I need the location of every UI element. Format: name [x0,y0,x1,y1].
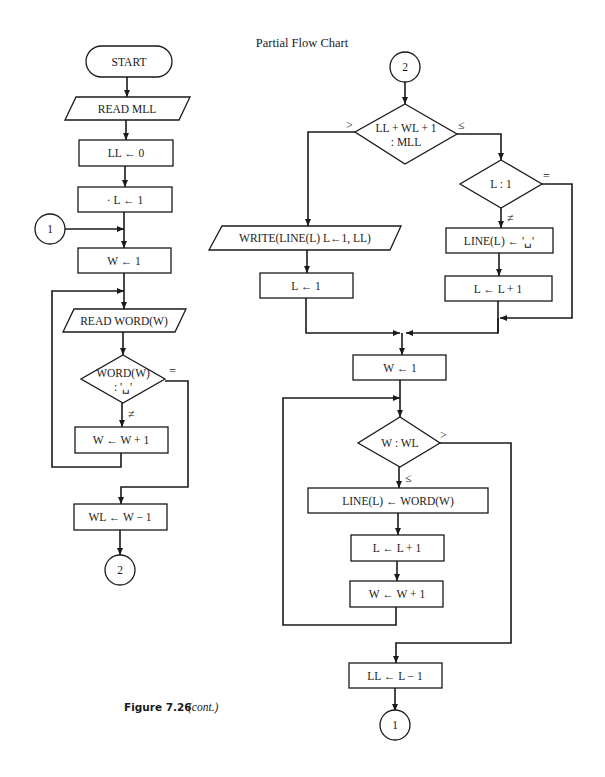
chart-title: Partial Flow Chart [256,36,349,50]
figure-caption-number: Figure 7.26 [124,701,192,713]
l-inc-b-process: L ← L + 1 [351,535,444,561]
w-inc-process: W ← W + 1 [75,427,168,453]
read-word-io: READ WORD(W) [63,309,186,332]
figure-caption-note: (cont.) [188,701,219,714]
w-inc-b-process: W ← W + 1 [350,581,443,607]
l-reset-process: L ← 1 [260,273,353,298]
w-init-b-label: W ← 1 [383,362,417,374]
word-blank-decision: WORD(W) : '␣' [81,355,165,403]
connector-1-out-label: 1 [392,719,398,731]
ll-set-process: LL ← L − 1 [349,663,442,688]
ll-init-process: LL ← 0 [79,140,173,166]
l-inc-a-label: L ← L + 1 [474,283,523,295]
ll-set-label: LL ← L − 1 [367,670,423,682]
wl-set-process: WL ← W − 1 [74,504,167,530]
word-decision-eq-label: = [169,364,176,378]
connector-2-in-label: 2 [402,61,408,73]
connector-1-in-label: 1 [47,223,53,235]
write-line-io: WRITE(LINE(L) L←1, LL) [209,226,401,250]
w-wl-gt-label: > [440,428,447,442]
line-fit-le-label: ≤ [458,118,465,132]
right-flow: 2 LL + WL + 1 : MLL > ≤ WRITE(LINE(L) L←… [209,52,572,740]
word-decision-line2: : '␣' [114,381,132,394]
connector-1-out: 1 [380,710,410,740]
ll-init-label: LL ← 0 [108,147,145,159]
l-init-label: · L ← 1 [107,194,144,206]
w-wl-le-label: ≤ [405,471,412,485]
connector-2-in: 2 [390,52,420,82]
w-init-process: W ← 1 [78,248,171,273]
write-line-label: WRITE(LINE(L) L←1, LL) [239,232,371,245]
line-fit-decision: LL + WL + 1 : MLL [355,104,457,164]
l-reset-label: L ← 1 [291,280,321,292]
l-inc-b-label: L ← L + 1 [373,542,422,554]
flowchart-canvas: Partial Flow Chart START READ MLL LL ← 0… [0,0,605,777]
w-init-b-process: W ← 1 [353,355,446,380]
l-one-decision: L : 1 [460,160,542,208]
line-fit-line2: : MLL [391,136,421,148]
w-inc-label: W ← W + 1 [93,434,150,446]
w-wl-decision: W : WL [358,417,440,467]
left-flow: START READ MLL LL ← 0 · L ← 1 1 [35,46,190,585]
start-label: START [112,56,147,68]
line-fit-line1: LL + WL + 1 [375,122,436,134]
line-word-process: LINE(L) ← WORD(W) [308,488,488,513]
l-init-process: · L ← 1 [78,187,172,212]
w-wl-label: W : WL [381,437,418,449]
l-inc-a-process: L ← L + 1 [445,276,552,301]
l-one-eq-label: = [543,169,550,183]
connector-2-out: 2 [105,555,135,585]
line-word-label: LINE(L) ← WORD(W) [342,495,454,508]
l-one-ne-label: ≠ [507,211,514,225]
word-decision-ne-label: ≠ [128,407,135,421]
l-one-label: L : 1 [490,178,512,190]
line-blank-label: LINE(L) ← '␣' [464,235,534,248]
start-terminal: START [86,46,172,77]
w-inc-b-label: W ← W + 1 [369,588,426,600]
line-fit-gt-label: > [346,118,353,132]
read-mll-label: READ MLL [98,103,156,115]
connector-1-in: 1 [35,214,65,244]
word-decision-line1: WORD(W) [96,367,150,380]
connector-2-out-label: 2 [117,564,123,576]
line-blank-process: LINE(L) ← '␣' [446,228,553,253]
read-word-label: READ WORD(W) [80,315,168,328]
wl-set-label: WL ← W − 1 [88,511,151,523]
w-init-label: W ← 1 [107,255,141,267]
read-mll-io: READ MLL [65,97,190,120]
